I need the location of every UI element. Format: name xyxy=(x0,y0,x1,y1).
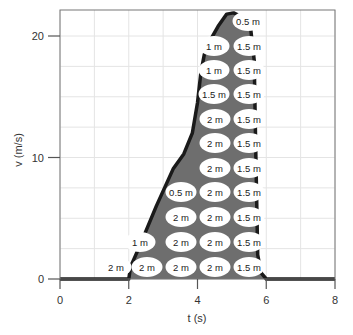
displacement-cell: 2 m xyxy=(200,182,231,202)
cell-label: 1.5 m xyxy=(237,114,261,125)
cell-label: 1.5 m xyxy=(237,41,261,52)
displacement-cell: 2 m xyxy=(200,232,231,252)
displacement-cells: 2 m2 m2 m2 m1.5 m1 m2 m2 m1.5 m2 m2 m1.5… xyxy=(101,11,265,277)
displacement-cell: 1 m xyxy=(125,232,156,252)
displacement-cell: 2 m xyxy=(166,207,197,227)
displacement-cell: 0.5 m xyxy=(233,11,264,31)
displacement-cell: 1.5 m xyxy=(234,257,265,277)
cell-label: 1.5 m xyxy=(237,89,261,100)
x-tick-label: 2 xyxy=(126,294,132,306)
y-tick-label: 20 xyxy=(32,30,44,42)
velocity-time-chart: 2 m2 m2 m2 m1.5 m1 m2 m2 m1.5 m2 m2 m1.5… xyxy=(0,0,353,335)
cell-label: 2 m xyxy=(173,237,189,248)
cell-label: 1.5 m xyxy=(237,262,261,273)
cell-label: 1.5 m xyxy=(237,163,261,174)
y-tick-label: 10 xyxy=(32,152,44,164)
x-tick-label: 0 xyxy=(57,294,63,306)
cell-label: 2 m xyxy=(207,114,223,125)
cell-label: 0.5 m xyxy=(236,16,260,27)
y-axis-title: v (m/s) xyxy=(12,133,24,167)
displacement-cell: 1.5 m xyxy=(234,207,265,227)
cell-label: 1 m xyxy=(206,41,222,52)
x-tick-label: 8 xyxy=(332,294,338,306)
cell-label: 2 m xyxy=(108,262,124,273)
displacement-cell: 1.5 m xyxy=(234,232,265,252)
x-tick-label: 6 xyxy=(263,294,269,306)
displacement-cell: 0.5 m xyxy=(166,182,197,202)
displacement-cell: 1.5 m xyxy=(199,84,230,104)
cell-label: 1 m xyxy=(206,65,222,76)
displacement-cell: 2 m xyxy=(200,109,231,129)
cell-label: 1.5 m xyxy=(202,89,226,100)
displacement-cell: 2 m xyxy=(132,257,163,277)
y-tick-label: 0 xyxy=(38,273,44,285)
cell-label: 2 m xyxy=(207,138,223,149)
cell-label: 1.5 m xyxy=(237,138,261,149)
displacement-cell: 2 m xyxy=(200,257,231,277)
cell-label: 2 m xyxy=(173,262,189,273)
displacement-cell: 1 m xyxy=(199,60,230,80)
displacement-cell: 1.5 m xyxy=(234,36,265,56)
cell-label: 1.5 m xyxy=(237,187,261,198)
cell-label: 2 m xyxy=(207,212,223,223)
cell-label: 1.5 m xyxy=(237,237,261,248)
cell-label: 2 m xyxy=(207,237,223,248)
displacement-cell: 1.5 m xyxy=(234,182,265,202)
cell-label: 2 m xyxy=(207,187,223,198)
displacement-cell: 1.5 m xyxy=(234,60,265,80)
cell-label: 0.5 m xyxy=(169,187,193,198)
x-axis-title: t (s) xyxy=(188,312,207,324)
displacement-cell: 2 m xyxy=(200,133,231,153)
displacement-cell: 1.5 m xyxy=(234,109,265,129)
displacement-cell: 2 m xyxy=(166,257,197,277)
displacement-cell: 2 m xyxy=(101,257,132,277)
displacement-cell: 2 m xyxy=(166,232,197,252)
displacement-cell: 1.5 m xyxy=(234,84,265,104)
cell-label: 2 m xyxy=(207,163,223,174)
cell-label: 1.5 m xyxy=(237,212,261,223)
cell-label: 2 m xyxy=(207,262,223,273)
cell-label: 1 m xyxy=(132,237,148,248)
cell-label: 1.5 m xyxy=(237,65,261,76)
displacement-cell: 2 m xyxy=(200,158,231,178)
displacement-cell: 1 m xyxy=(199,36,230,56)
cell-label: 2 m xyxy=(139,262,155,273)
displacement-cell: 1.5 m xyxy=(234,158,265,178)
displacement-cell: 2 m xyxy=(200,207,231,227)
cell-label: 2 m xyxy=(173,212,189,223)
displacement-cell: 1.5 m xyxy=(234,133,265,153)
x-tick-label: 4 xyxy=(194,294,200,306)
